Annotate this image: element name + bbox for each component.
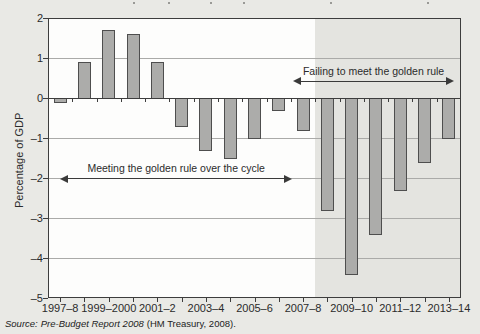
zero-line-tick: [145, 98, 146, 102]
y-axis-tick: [43, 58, 48, 59]
bar: [297, 98, 310, 131]
annotation-text: Meeting the golden rule over the cycle: [60, 162, 292, 174]
bar: [175, 98, 188, 127]
zero-line-tick: [169, 98, 170, 102]
y-tick-label: 0: [15, 92, 43, 104]
cropped-title-descender: [330, 2, 332, 4]
zero-line-tick: [97, 98, 98, 102]
annotation-arrowhead-right: [446, 77, 454, 85]
bar: [345, 98, 358, 275]
annotation-arrow-line: [299, 81, 447, 82]
cropped-title-descender: [168, 2, 170, 4]
zero-line-tick: [364, 98, 365, 102]
bar: [321, 98, 334, 211]
annotation-arrowhead-left: [293, 77, 301, 85]
y-axis-tick: [43, 298, 48, 299]
zero-line-tick: [218, 98, 219, 102]
bar: [127, 34, 140, 99]
cropped-title-descender: [210, 2, 212, 4]
annotation-text: Failing to meet the golden rule: [293, 65, 453, 77]
y-tick-label: –2: [15, 172, 43, 184]
annotation-arrowhead-right: [284, 175, 292, 183]
y-tick-label: –1: [15, 132, 43, 144]
zero-axis-line: [48, 98, 461, 99]
y-axis-title: Percentage of GDP: [13, 113, 25, 208]
bar: [418, 98, 431, 163]
zero-line-tick: [242, 98, 243, 102]
cropped-title-descender: [243, 2, 245, 4]
y-tick-label: 2: [15, 12, 43, 24]
y-axis-tick: [43, 218, 48, 219]
zero-line-tick: [291, 98, 292, 102]
y-axis-tick: [43, 178, 48, 179]
source-publisher: (HM Treasury, 2008).: [147, 318, 236, 329]
x-tick-label: 2013–14: [413, 302, 480, 314]
gridline: [48, 218, 461, 219]
y-axis-tick: [43, 138, 48, 139]
bar: [224, 98, 237, 159]
cropped-title-descender: [133, 2, 135, 4]
y-axis-tick: [43, 18, 48, 19]
bar: [151, 62, 164, 99]
zero-line-tick: [194, 98, 195, 102]
y-tick-label: –3: [15, 212, 43, 224]
bar: [102, 30, 115, 99]
bar: [272, 98, 285, 111]
bar: [394, 98, 407, 191]
gridline: [48, 258, 461, 259]
zero-line-tick: [267, 98, 268, 102]
bar: [369, 98, 382, 235]
y-tick-label: –4: [15, 252, 43, 264]
zero-line-tick: [437, 98, 438, 102]
bar: [78, 62, 91, 99]
bar: [248, 98, 261, 139]
source-label: Source:: [5, 318, 38, 329]
zero-line-tick: [340, 98, 341, 102]
annotation-arrowhead-left: [60, 175, 68, 183]
source-citation: Source:Pre-Budget Report 2008(HM Treasur…: [5, 318, 239, 329]
zero-line-tick: [72, 98, 73, 102]
zero-line-tick: [315, 98, 316, 102]
cropped-title-descender: [427, 2, 429, 4]
source-work-title: Pre-Budget Report 2008: [41, 318, 144, 329]
shaded-region: [315, 19, 460, 297]
figure: 210–1–2–3–4–51997–81999–20002001–22003–4…: [0, 0, 480, 334]
annotation-arrow-line: [66, 178, 286, 179]
y-axis-tick: [43, 258, 48, 259]
zero-line-tick: [388, 98, 389, 102]
zero-line-tick: [121, 98, 122, 102]
y-tick-label: 1: [15, 52, 43, 64]
bar: [442, 98, 455, 139]
bar: [199, 98, 212, 151]
zero-line-tick: [412, 98, 413, 102]
